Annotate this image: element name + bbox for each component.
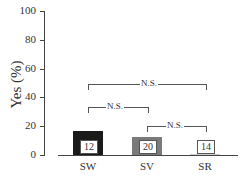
y-tick-label: 80: [12, 33, 36, 45]
y-tick: [40, 69, 44, 70]
y-tick-label: 40: [12, 90, 36, 102]
y-tick-label: 0: [12, 148, 36, 160]
x-axis-line: [58, 155, 238, 156]
y-tick: [40, 11, 44, 12]
x-tick-label: SR: [190, 160, 220, 172]
n-label: 14: [197, 140, 215, 154]
y-tick-label: 100: [12, 4, 36, 16]
y-tick: [40, 40, 44, 41]
y-tick: [40, 97, 44, 98]
ns-label-sw-sv: N.S.: [106, 101, 124, 111]
y-tick-label: 20: [12, 119, 36, 131]
ns-label-sw-sr: N.S.: [140, 78, 158, 88]
n-label: 20: [139, 140, 157, 154]
ns-label-sv-sr: N.S.: [166, 120, 184, 130]
x-tick-label: SW: [73, 160, 103, 172]
bar-sr: [190, 154, 220, 155]
x-tick-label: SV: [132, 160, 162, 172]
y-tick: [40, 155, 44, 156]
y-tick-label: 60: [12, 62, 36, 74]
y-axis-line: [44, 11, 45, 156]
y-tick: [40, 126, 44, 127]
n-label: 12: [80, 140, 98, 154]
